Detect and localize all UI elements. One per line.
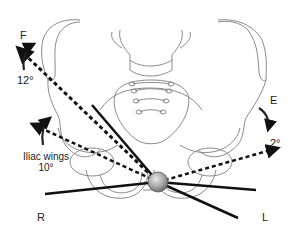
extension-axis [158, 148, 278, 182]
flexion-label: F [20, 30, 27, 41]
right-side-label: R [37, 212, 45, 223]
left-side-label: L [262, 212, 268, 223]
sacral-foramina [129, 82, 174, 114]
sacrum [120, 30, 183, 76]
right-iliac-wing [42, 20, 100, 157]
iliac-wings-text: Iliac wings [18, 152, 74, 162]
left-iliac-wing [198, 20, 266, 157]
flexion-angle: 12° [17, 75, 34, 86]
extension-rotation-arrow [259, 108, 269, 130]
pelvis-outline [42, 20, 267, 199]
hip-joint-center [148, 172, 168, 192]
extension-label: E [270, 95, 277, 106]
iliac-wings-angle: 10° [18, 163, 74, 173]
iliac-wings-label: Iliac wings 10° [18, 152, 74, 173]
flexion-rotation-arrow [23, 44, 34, 70]
pelvis-diagram [0, 0, 298, 236]
solid-axis-lower-left [45, 182, 158, 194]
extension-angle: 2° [270, 138, 281, 149]
